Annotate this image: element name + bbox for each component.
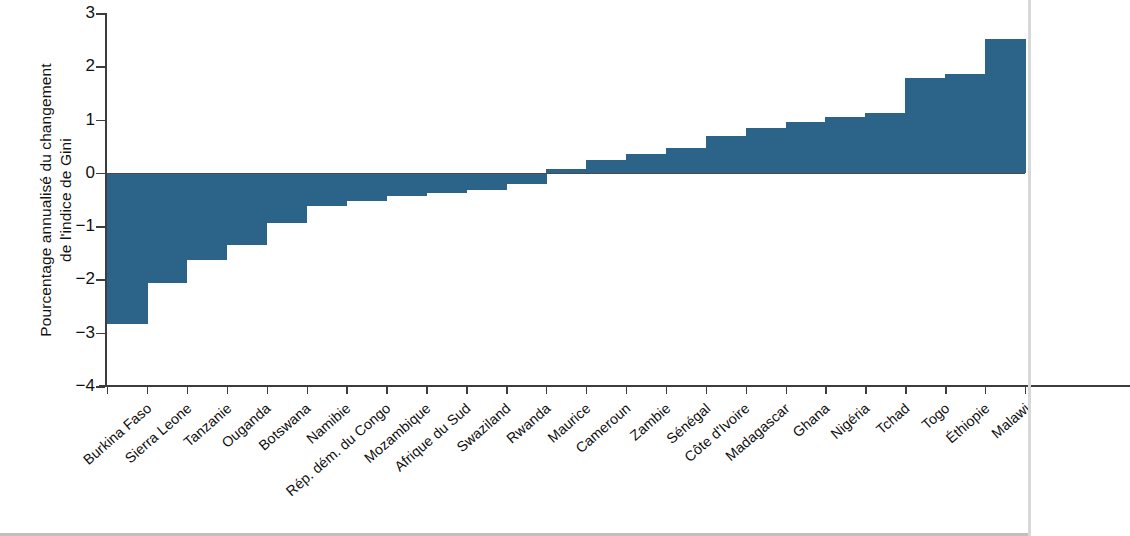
x-tick-mark (227, 386, 228, 394)
y-tick-mark (96, 120, 105, 122)
x-tick-mark (307, 386, 308, 394)
y-tick-mark (96, 173, 105, 175)
x-tick-mark (666, 386, 667, 394)
x-axis-label: Tchad (873, 400, 912, 437)
x-tick-mark (426, 386, 427, 394)
y-tick-mark (96, 386, 105, 388)
y-tick-mark (96, 333, 105, 335)
y-axis-title-line-1: Pourcentage annualisé du changement (36, 63, 56, 336)
y-tick-label: −4 (76, 376, 95, 396)
bar (466, 173, 507, 191)
x-axis-label: Ghana (790, 400, 833, 440)
x-tick-mark (147, 386, 148, 394)
x-tick-mark (187, 386, 188, 394)
x-tick-mark (746, 386, 747, 394)
x-tick-mark (786, 386, 787, 394)
x-tick-mark (706, 386, 707, 394)
y-tick-label: 1 (86, 110, 95, 130)
x-axis-label: Rwanda (503, 400, 553, 447)
bar (346, 173, 387, 201)
x-tick-mark (346, 386, 347, 394)
x-tick-mark (546, 386, 547, 394)
y-tick-label: −2 (76, 269, 95, 289)
bar (267, 173, 308, 223)
y-axis-title-line-2: de l'indice de Gini (56, 138, 76, 262)
y-tick-label: 2 (86, 56, 95, 76)
x-axis-label: Togo (918, 400, 952, 433)
page-right-edge (1028, 0, 1031, 536)
x-axis-label: Éthiopie (943, 400, 993, 446)
y-tick-mark (96, 226, 105, 228)
x-axis-label: Nigéria (828, 400, 873, 442)
x-tick-mark (386, 386, 387, 394)
y-tick-mark (96, 279, 105, 281)
y-tick-label: −3 (76, 323, 95, 343)
x-tick-mark (267, 386, 268, 394)
y-tick-label: 0 (86, 163, 95, 183)
y-tick-mark (96, 13, 105, 15)
bar (905, 78, 946, 173)
bar (227, 173, 268, 245)
y-tick-label: −1 (76, 216, 95, 236)
x-tick-mark (865, 386, 866, 394)
x-tick-mark (107, 386, 108, 394)
bar (706, 136, 747, 173)
x-tick-mark (985, 386, 986, 394)
x-axis-line (99, 385, 1130, 387)
bar (586, 160, 627, 173)
x-tick-mark (506, 386, 507, 394)
bar (506, 173, 547, 184)
bar (746, 128, 787, 173)
bar (147, 173, 188, 283)
bar (666, 148, 707, 173)
y-tick-label: 3 (86, 3, 95, 23)
x-tick-mark (626, 386, 627, 394)
y-tick-mark (96, 66, 105, 68)
bar (786, 122, 827, 173)
bar (187, 173, 228, 260)
x-tick-mark (586, 386, 587, 394)
bar (386, 173, 427, 196)
zero-baseline (105, 173, 1025, 174)
plot-area: 3210−1−2−3−4 Burkina FasoSierra LeoneTan… (105, 6, 1025, 386)
x-tick-mark (1025, 386, 1026, 394)
x-axis-label: Malawi (988, 400, 1032, 441)
bar (865, 113, 906, 173)
x-tick-mark (945, 386, 946, 394)
bar (426, 173, 467, 193)
bar (307, 173, 348, 207)
x-tick-mark (466, 386, 467, 394)
bar (825, 117, 866, 173)
bar (107, 173, 148, 324)
bar (626, 154, 667, 173)
bar (985, 39, 1026, 173)
x-tick-mark (825, 386, 826, 394)
x-tick-mark (905, 386, 906, 394)
bar (945, 74, 986, 173)
